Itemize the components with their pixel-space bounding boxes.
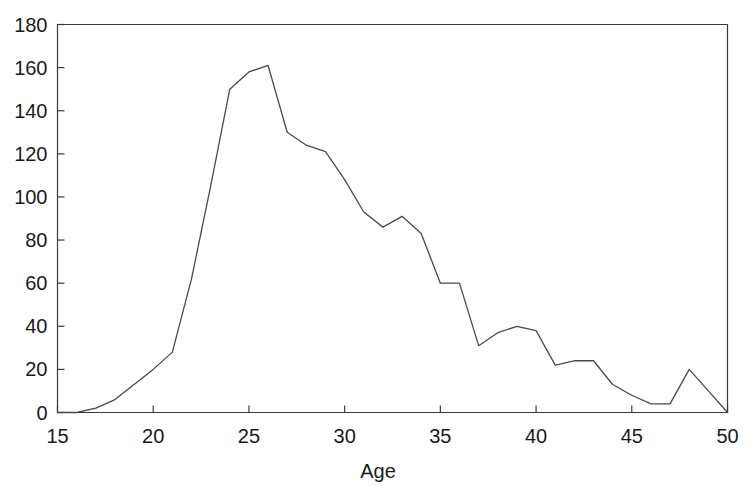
x-tick-label: 15: [46, 425, 68, 447]
y-tick-label: 180: [14, 14, 47, 36]
x-tick-label: 35: [429, 425, 451, 447]
y-tick-label: 60: [25, 272, 47, 294]
y-tick-label: 80: [25, 229, 47, 251]
y-axis-tick-labels: 020406080100120140160180: [14, 14, 47, 424]
x-axis-tick-labels: 1520253035404550: [46, 425, 738, 447]
axes-frame: [58, 25, 728, 413]
y-tick-label: 120: [14, 143, 47, 165]
y-tick-label: 140: [14, 100, 47, 122]
data-series-line: [58, 65, 728, 412]
y-tick-label: 20: [25, 358, 47, 380]
x-tick-label: 25: [238, 425, 260, 447]
x-tick-label: 30: [334, 425, 356, 447]
x-tick-label: 50: [716, 425, 738, 447]
line-chart-canvas: 020406080100120140160180 152025303540455…: [0, 0, 752, 486]
y-tick-label: 100: [14, 186, 47, 208]
y-axis-tickmarks: [58, 25, 65, 413]
x-axis-title: Age: [360, 460, 396, 482]
x-tick-label: 45: [621, 425, 643, 447]
x-tick-label: 40: [525, 425, 547, 447]
x-tick-label: 20: [142, 425, 164, 447]
y-tick-label: 40: [25, 315, 47, 337]
chart-figure: 020406080100120140160180 152025303540455…: [0, 0, 752, 486]
y-tick-label: 160: [14, 57, 47, 79]
x-axis-tickmarks: [58, 406, 728, 413]
axes-spines: [58, 25, 728, 413]
y-tick-label: 0: [36, 402, 47, 424]
